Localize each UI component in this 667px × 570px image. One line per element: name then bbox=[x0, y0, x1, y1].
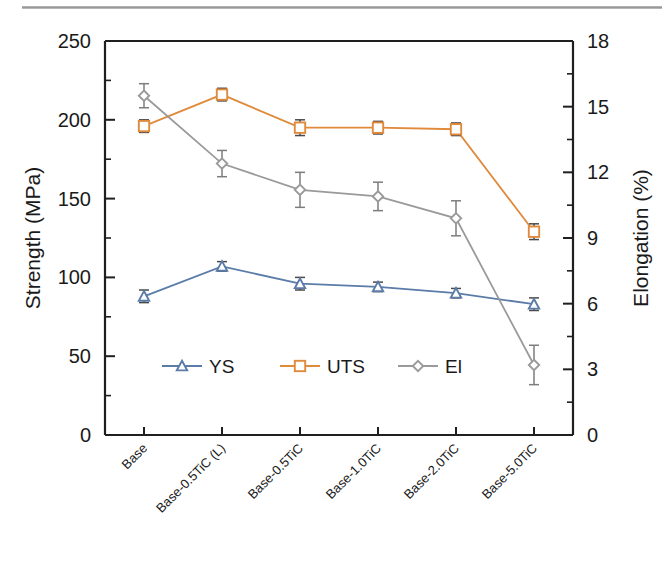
strength-elongation-chart: 0501001502002500369121518 BaseBase-0.5Ti… bbox=[0, 0, 667, 570]
x-category-label: Base-2.0TiC bbox=[401, 441, 462, 502]
tick-labels-layer: 0501001502002500369121518 bbox=[58, 30, 610, 446]
series-line bbox=[144, 95, 534, 232]
triangle-marker bbox=[139, 291, 149, 301]
y-tick-label-right: 3 bbox=[587, 358, 598, 380]
diamond-marker bbox=[413, 361, 423, 371]
figure-root: 0501001502002500369121518 BaseBase-0.5Ti… bbox=[0, 0, 667, 570]
square-marker bbox=[217, 89, 227, 99]
legend: YSUTSEl bbox=[162, 356, 462, 377]
x-category-label: Base bbox=[119, 441, 151, 473]
series-UTS bbox=[139, 88, 539, 239]
series-line bbox=[144, 96, 534, 365]
y-tick-label-right: 9 bbox=[587, 227, 598, 249]
series-El bbox=[139, 84, 539, 385]
y-tick-label-right: 18 bbox=[587, 30, 609, 52]
x-category-label: Base-0.5TiC (L) bbox=[153, 441, 228, 516]
triangle-marker bbox=[529, 299, 539, 309]
category-labels-layer: BaseBase-0.5TiC (L)Base-0.5TiCBase-1.0Ti… bbox=[119, 441, 541, 516]
square-marker bbox=[295, 361, 305, 371]
legend-item-UTS[interactable]: UTS bbox=[280, 356, 365, 377]
series-layer bbox=[139, 84, 539, 385]
x-category-label: Base-1.0TiC bbox=[323, 441, 384, 502]
y-tick-label-left: 0 bbox=[80, 424, 91, 446]
y-tick-label-left: 100 bbox=[58, 266, 91, 288]
y-tick-label-right: 15 bbox=[587, 96, 609, 118]
y-tick-label-right: 6 bbox=[587, 293, 598, 315]
x-category-label: Base-5.0TiC bbox=[479, 441, 540, 502]
diamond-marker bbox=[295, 185, 305, 195]
triangle-marker bbox=[217, 261, 227, 271]
y-axis-title-right: Elongation (%) bbox=[629, 169, 652, 307]
page-scan-rule bbox=[22, 6, 662, 9]
legend-label: YS bbox=[209, 356, 234, 377]
y-tick-label-left: 150 bbox=[58, 188, 91, 210]
legend-item-El[interactable]: El bbox=[398, 356, 462, 377]
legend-label: UTS bbox=[327, 356, 365, 377]
triangle-marker bbox=[295, 279, 305, 289]
triangle-marker bbox=[177, 361, 187, 371]
square-marker bbox=[295, 122, 305, 132]
y-tick-label-left: 250 bbox=[58, 30, 91, 52]
series-line bbox=[144, 266, 534, 304]
y-tick-label-left: 200 bbox=[58, 109, 91, 131]
legend-label: El bbox=[445, 356, 462, 377]
diamond-marker bbox=[451, 213, 461, 223]
square-marker bbox=[373, 122, 383, 132]
y-axis-title-left: Strength (MPa) bbox=[21, 167, 44, 309]
triangle-marker bbox=[373, 282, 383, 292]
legend-item-YS[interactable]: YS bbox=[162, 356, 234, 377]
x-category-label: Base-0.5TiC bbox=[245, 441, 306, 502]
square-marker bbox=[451, 124, 461, 134]
square-marker bbox=[529, 226, 539, 236]
series-YS bbox=[139, 261, 539, 310]
square-marker bbox=[139, 121, 149, 131]
y-tick-label-left: 50 bbox=[69, 345, 91, 367]
diamond-marker bbox=[529, 360, 539, 370]
triangle-marker bbox=[451, 288, 461, 298]
y-tick-label-right: 0 bbox=[587, 424, 598, 446]
diamond-marker bbox=[373, 191, 383, 201]
y-tick-label-right: 12 bbox=[587, 161, 609, 183]
